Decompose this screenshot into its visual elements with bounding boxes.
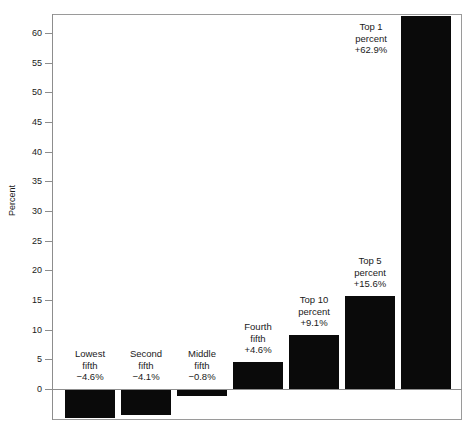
y-tick-label-50: 50 — [16, 88, 42, 97]
y-tick-35 — [45, 181, 53, 182]
y-tick-15 — [45, 300, 53, 301]
y-tick-20 — [45, 270, 53, 271]
y-axis-title: Percent — [8, 171, 17, 231]
bar-annotation-line2: fifth — [167, 360, 237, 372]
bar-annotation-value: −0.8% — [167, 371, 237, 383]
bar-annotation-line2: fifth — [223, 333, 293, 345]
y-tick-label-30: 30 — [16, 207, 42, 216]
y-tick-30 — [45, 211, 53, 212]
y-tick-label-35: 35 — [16, 177, 42, 186]
y-tick-40 — [45, 152, 53, 153]
bar-annotation-line1: Top 10 — [279, 294, 349, 306]
bar-annotation-line2: percent — [335, 267, 405, 279]
bar-annotation-line2: percent — [279, 306, 349, 318]
bar-annotation-top-1-percent: Top 1 percent +62.9% — [341, 21, 401, 56]
y-tick-label-45: 45 — [16, 118, 42, 127]
bar-lowest-fifth — [65, 390, 115, 418]
bar-fourth-fifth — [233, 362, 283, 389]
y-tick-label-60: 60 — [16, 29, 42, 38]
y-tick-label-5: 5 — [16, 355, 42, 364]
y-tick-label-10: 10 — [16, 326, 42, 335]
bar-annotation-line2: percent — [341, 33, 401, 45]
y-tick-5 — [45, 359, 53, 360]
bar-second-fifth — [121, 390, 171, 415]
bar-middle-fifth — [177, 390, 227, 396]
y-tick-label-25: 25 — [16, 237, 42, 246]
bar-annotation-top-5-percent: Top 5 percent +15.6% — [335, 255, 405, 290]
bar-annotation-value: +4.6% — [223, 344, 293, 356]
y-tick-25 — [45, 241, 53, 242]
bar-top-1-percent — [401, 16, 451, 389]
bar-top-5-percent — [345, 296, 395, 389]
bar-annotation-top-10-percent: Top 10 percent +9.1% — [279, 294, 349, 329]
bar-annotation-line1: Top 5 — [335, 255, 405, 267]
bar-chart: 0 5 10 15 20 25 30 35 40 45 50 55 60 Per… — [0, 0, 474, 434]
bar-top-10-percent — [289, 335, 339, 389]
bar-annotation-value: +62.9% — [341, 44, 401, 56]
y-tick-10 — [45, 330, 53, 331]
y-tick-45 — [45, 122, 53, 123]
bar-annotation-value: +9.1% — [279, 317, 349, 329]
y-tick-label-40: 40 — [16, 148, 42, 157]
y-tick-label-55: 55 — [16, 59, 42, 68]
zero-baseline — [52, 389, 462, 390]
y-tick-label-0: 0 — [16, 385, 42, 394]
y-tick-label-20: 20 — [16, 266, 42, 275]
y-tick-50 — [45, 92, 53, 93]
y-tick-label-15: 15 — [16, 296, 42, 305]
bar-annotation-value: +15.6% — [335, 278, 405, 290]
y-tick-55 — [45, 63, 53, 64]
bar-annotation-line1: Top 1 — [341, 21, 401, 33]
y-tick-60 — [45, 33, 53, 34]
